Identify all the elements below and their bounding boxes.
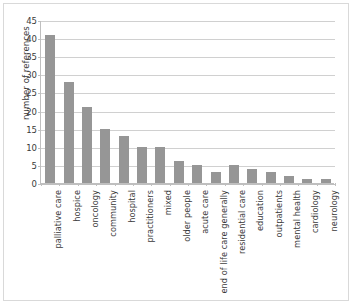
y-axis-tick-mark — [38, 93, 41, 94]
bar — [155, 147, 165, 183]
bar — [119, 136, 129, 183]
x-axis-tick-label: older people — [182, 190, 193, 304]
x-axis-tick-label: oncology — [90, 190, 101, 304]
bar — [45, 35, 55, 184]
bar-chart: number of references 051015202530354045 … — [0, 0, 353, 304]
bar — [137, 147, 147, 183]
x-axis-tick-mark — [170, 183, 171, 186]
x-axis-tick-mark — [206, 183, 207, 186]
y-axis-tick-mark — [38, 57, 41, 58]
bar — [266, 172, 276, 183]
bar — [100, 129, 110, 183]
y-axis-tick-label: 30 — [26, 70, 37, 80]
bar — [192, 165, 202, 183]
x-axis-tick-mark — [317, 183, 318, 186]
x-axis-tick-label: residential care — [237, 190, 248, 304]
x-axis-tick-label: practitioners — [145, 190, 156, 304]
x-axis-tick-mark — [41, 183, 42, 186]
y-axis-tick-mark — [38, 21, 41, 22]
x-axis-tick-label: end of life care generally — [219, 190, 230, 304]
x-axis-tick-label: neurology — [329, 190, 340, 304]
x-axis-tick-label: acute care — [200, 190, 211, 304]
x-axis-tick-mark — [225, 183, 226, 186]
bar — [82, 107, 92, 183]
bar — [174, 161, 184, 183]
y-axis-tick-label: 0 — [32, 179, 37, 189]
y-axis-tick-mark — [38, 166, 41, 167]
x-axis-tick-mark — [133, 183, 134, 186]
x-axis-tick-mark — [115, 183, 116, 186]
x-axis-tick-mark — [335, 183, 336, 186]
chart-frame: number of references 051015202530354045 … — [3, 3, 349, 301]
x-axis-tick-mark — [262, 183, 263, 186]
y-axis-tick-mark — [38, 130, 41, 131]
x-axis-tick-label: palliative care — [53, 190, 64, 304]
y-axis-tick-label: 45 — [26, 16, 37, 26]
y-axis-tick-label: 15 — [26, 125, 37, 135]
gridline — [41, 21, 335, 22]
x-axis-tick-label: mental health — [292, 190, 303, 304]
x-axis-tick-mark — [243, 183, 244, 186]
x-axis-tick-label: hospice — [72, 190, 83, 304]
y-axis-tick-mark — [38, 75, 41, 76]
y-axis-tick-label: 40 — [26, 34, 37, 44]
x-axis-tick-label: mixed — [163, 190, 174, 304]
gridline — [41, 57, 335, 58]
bar — [302, 179, 312, 183]
y-axis-tick-label: 10 — [26, 143, 37, 153]
y-axis-tick-label: 5 — [32, 161, 37, 171]
y-axis-tick-label: 25 — [26, 88, 37, 98]
y-axis-tick-mark — [38, 39, 41, 40]
x-axis-tick-mark — [188, 183, 189, 186]
y-axis-tick-label: 35 — [26, 52, 37, 62]
gridline — [41, 93, 335, 94]
y-axis-tick-label: 20 — [26, 107, 37, 117]
bar — [321, 179, 331, 183]
bar — [247, 169, 257, 183]
x-axis-tick-label: cardiology — [310, 190, 321, 304]
x-axis-tick-mark — [59, 183, 60, 186]
x-axis-tick-label: community — [108, 190, 119, 304]
x-axis-tick-label: outpatients — [274, 190, 285, 304]
x-axis-tick-mark — [298, 183, 299, 186]
x-axis-tick-mark — [151, 183, 152, 186]
gridline — [41, 39, 335, 40]
x-axis-tick-mark — [96, 183, 97, 186]
x-axis-tick-mark — [280, 183, 281, 186]
bar — [229, 165, 239, 183]
x-axis-tick-label: hospital — [127, 190, 138, 304]
bar — [64, 82, 74, 183]
plot-area: 051015202530354045 — [40, 21, 334, 184]
y-axis-tick-mark — [38, 112, 41, 113]
x-axis-tick-mark — [78, 183, 79, 186]
bar — [211, 172, 221, 183]
x-axis-tick-label: education — [255, 190, 266, 304]
gridline — [41, 75, 335, 76]
bar — [284, 176, 294, 183]
y-axis-tick-mark — [38, 148, 41, 149]
